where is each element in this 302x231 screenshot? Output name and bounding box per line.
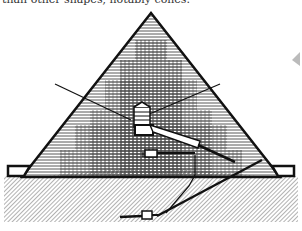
king-chamber — [134, 102, 153, 135]
page-mark — [292, 52, 300, 66]
pyramid-cross-section-figure — [0, 0, 302, 231]
